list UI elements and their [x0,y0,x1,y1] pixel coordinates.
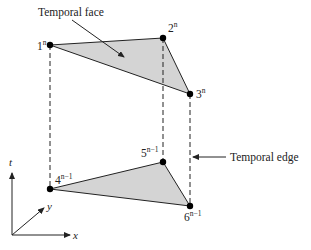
t-axis-label: t [9,156,13,168]
bottom-face [50,162,190,206]
node-label-5: 5n−1 [141,145,159,159]
node-3 [187,91,193,97]
coordinate-axes [12,173,70,235]
y-axis [12,208,44,235]
x-axis-label: x [72,229,78,241]
node-label-6: 6n−1 [184,209,202,223]
node-4 [47,186,53,192]
node-5 [160,159,166,165]
top-face [50,38,190,94]
node-label-2: 2n [168,20,178,34]
node-label-1: 1n [37,38,47,52]
node-label-3: 3n [196,86,206,100]
temporal-face-label: Temporal face [38,6,104,19]
y-axis-label: y [46,200,52,212]
temporal-element-diagram: 1n 2n 3n 4n−1 5n−1 6n−1 Temporal face Te… [0,0,311,250]
temporal-edge-label: Temporal edge [230,151,298,164]
node-1 [47,42,53,48]
node-2 [160,35,166,41]
